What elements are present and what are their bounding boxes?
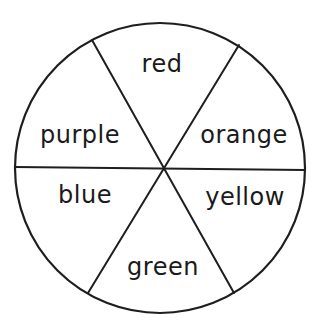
sector-label-blue: blue (58, 181, 112, 209)
sector-label-red: red (142, 50, 183, 78)
sector-label-yellow: yellow (205, 183, 285, 211)
sector-label-orange: orange (200, 121, 287, 149)
color-wheel-diagram: red purple orange blue yellow green (0, 0, 317, 324)
sector-label-purple: purple (40, 121, 120, 149)
sector-label-green: green (127, 253, 199, 281)
